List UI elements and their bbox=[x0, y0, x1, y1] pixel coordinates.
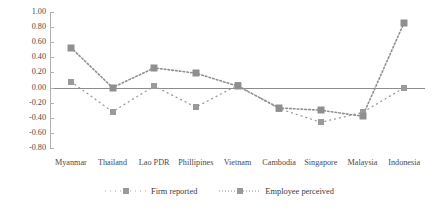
y-axis-tick-label: 0.60 bbox=[32, 38, 46, 46]
y-axis-tick-label: 0.40 bbox=[32, 53, 46, 61]
data-point-marker bbox=[151, 64, 158, 71]
x-axis-tick-label: Lao PDR bbox=[139, 158, 170, 167]
data-point-marker bbox=[401, 19, 408, 26]
x-axis-tick-label: Indonesia bbox=[388, 158, 420, 167]
x-axis-tick-label: Myanmar bbox=[55, 158, 87, 167]
data-point-marker bbox=[234, 83, 241, 90]
y-axis-tick-label: -0.40 bbox=[29, 114, 46, 122]
x-axis-tick-label: Thailand bbox=[98, 158, 127, 167]
data-point-marker bbox=[110, 109, 116, 115]
x-axis-tick-label: Cambodia bbox=[262, 158, 296, 167]
y-axis-labels: 1.000.800.600.400.200.00-0.20-0.40-0.60-… bbox=[0, 12, 46, 148]
data-point-marker bbox=[318, 119, 324, 125]
legend-item-employee-perceived: Employee perceived bbox=[219, 187, 334, 196]
y-axis-tick bbox=[50, 42, 54, 43]
data-point-marker bbox=[151, 83, 157, 89]
x-axis-tick-label: Malaysia bbox=[347, 158, 377, 167]
y-axis-tick bbox=[50, 148, 54, 149]
chart-legend: Firm reported Employee perceived bbox=[0, 182, 439, 200]
x-axis-labels: MyanmarThailandLao PDRPhillipinesVietnam… bbox=[50, 158, 425, 172]
y-axis-tick bbox=[50, 12, 54, 13]
y-axis-tick-label: -0.60 bbox=[29, 129, 46, 137]
x-axis-tick-label: Phillipines bbox=[178, 158, 213, 167]
y-axis-tick bbox=[50, 103, 54, 104]
legend-label-firm-reported: Firm reported bbox=[151, 187, 197, 196]
data-point-marker bbox=[317, 107, 324, 114]
x-axis-tick-label: Vietnam bbox=[224, 158, 252, 167]
y-axis-tick bbox=[50, 133, 54, 134]
dotted-square-marker-icon bbox=[219, 187, 261, 195]
y-axis-tick bbox=[50, 72, 54, 73]
data-point-marker bbox=[109, 84, 116, 91]
y-axis-tick bbox=[50, 118, 54, 119]
data-point-marker bbox=[67, 44, 74, 51]
y-axis-tick-label: -0.80 bbox=[29, 144, 46, 152]
y-axis-tick bbox=[50, 27, 54, 28]
y-axis-tick bbox=[50, 88, 54, 89]
chart-container: 1.000.800.600.400.200.00-0.20-0.40-0.60-… bbox=[0, 0, 439, 209]
data-point-marker bbox=[401, 85, 407, 91]
legend-item-firm-reported: Firm reported bbox=[105, 187, 197, 196]
data-point-marker bbox=[193, 104, 199, 110]
y-axis-tick-label: -0.20 bbox=[29, 99, 46, 107]
y-axis-tick-label: 0.00 bbox=[32, 84, 46, 92]
legend-label-employee-perceived: Employee perceived bbox=[265, 187, 334, 196]
data-point-marker bbox=[359, 113, 366, 120]
y-axis-tick-label: 0.20 bbox=[32, 68, 46, 76]
data-point-marker bbox=[192, 70, 199, 77]
plot-area bbox=[50, 12, 425, 148]
x-axis-tick-label: Singapore bbox=[304, 158, 337, 167]
data-point-marker bbox=[68, 79, 74, 85]
y-axis-tick-label: 1.00 bbox=[32, 8, 46, 16]
y-axis-tick bbox=[50, 57, 54, 58]
data-point-marker bbox=[276, 104, 283, 111]
y-axis-tick-label: 0.80 bbox=[32, 23, 46, 31]
dotted-square-marker-icon bbox=[105, 187, 147, 195]
